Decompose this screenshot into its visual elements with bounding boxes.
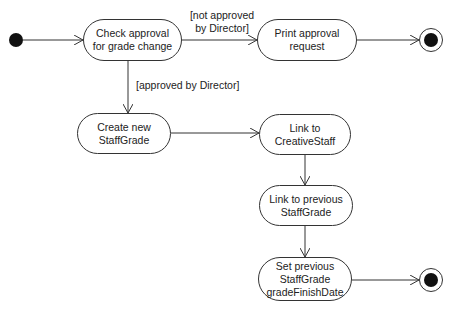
guard-approved: [approved by Director] [136,79,239,92]
final-node-1-dot [424,33,438,47]
activity-link-previous: Link to previous StaffGrade [259,185,353,226]
activity-set-previous: Set previous StaffGrade gradeFinishDate [258,257,352,301]
diagram-canvas [0,0,454,311]
activity-check-approval: Check approval for grade change [83,19,182,61]
initial-node [9,33,23,47]
final-node-2-dot [424,273,438,287]
activity-link-creativestaff: Link to CreativeStaff [259,114,351,155]
activity-create-staffgrade: Create new StaffGrade [77,113,171,154]
guard-not-approved: [not approved by Director] [184,9,260,35]
activity-print-approval: Print approval request [257,19,357,61]
